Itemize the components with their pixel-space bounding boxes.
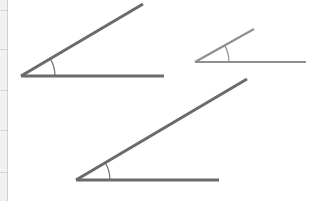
angle-c: [76, 79, 247, 180]
angle-c-arc: [105, 163, 110, 180]
angles-diagram: [0, 0, 329, 201]
angle-a-ray: [21, 4, 143, 76]
angle-a-arc: [50, 59, 55, 76]
angle-c-ray: [76, 79, 247, 180]
angle-a: [21, 4, 164, 76]
angle-b: [195, 29, 306, 62]
angle-b-arc: [225, 45, 229, 62]
